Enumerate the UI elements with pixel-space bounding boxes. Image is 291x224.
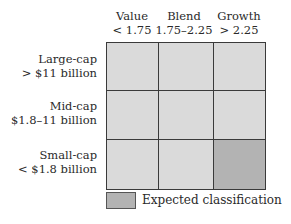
column-label: Blend — [154, 9, 214, 23]
cell-small-value — [107, 140, 158, 189]
legend-swatch — [106, 192, 136, 209]
column-label: Value — [102, 9, 162, 23]
cell-small-growth-expected — [214, 140, 265, 189]
legend-label: Expected classification — [142, 193, 282, 208]
row-range: < $1.8 billion — [0, 162, 97, 176]
column-header-value: Value < 1.75 — [102, 9, 162, 37]
column-label: Growth — [209, 9, 269, 23]
cell-mid-growth — [214, 91, 265, 139]
row-label: Mid-cap — [0, 99, 97, 113]
style-box-grid — [106, 42, 266, 190]
column-header-blend: Blend 1.75–2.25 — [154, 9, 214, 37]
cell-mid-blend — [159, 91, 213, 139]
column-range: < 1.75 — [102, 23, 162, 37]
cell-large-value — [107, 43, 158, 90]
column-range: 1.75–2.25 — [154, 23, 214, 37]
row-label: Small-cap — [0, 148, 97, 162]
cell-large-growth — [214, 43, 265, 90]
cell-large-blend — [159, 43, 213, 90]
column-header-growth: Growth > 2.25 — [209, 9, 269, 37]
row-range: $1.8–11 billion — [0, 113, 97, 127]
row-header-large-cap: Large-cap > $11 billion — [0, 52, 97, 80]
row-header-small-cap: Small-cap < $1.8 billion — [0, 148, 97, 176]
cell-mid-value — [107, 91, 158, 139]
cell-small-blend — [159, 140, 213, 189]
row-range: > $11 billion — [0, 66, 97, 80]
row-header-mid-cap: Mid-cap $1.8–11 billion — [0, 99, 97, 127]
column-range: > 2.25 — [209, 23, 269, 37]
row-label: Large-cap — [0, 52, 97, 66]
